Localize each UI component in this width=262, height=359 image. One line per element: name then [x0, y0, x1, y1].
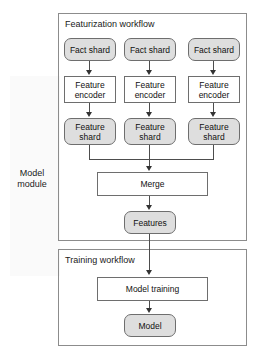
- model-module-label-line1: Model: [20, 168, 45, 178]
- node-fact-shard-2[interactable]: Fact shard: [124, 38, 176, 61]
- connector-merge-bus: [89, 159, 214, 160]
- arrowhead-merge-to-features: [146, 205, 152, 210]
- arrowhead-encoder1-to-shard1: [86, 112, 92, 117]
- arrowhead-model-training-to-model: [146, 308, 152, 313]
- arrowhead-encoder3-to-shard3: [210, 112, 216, 117]
- arrowhead-fact2-to-encoder2: [146, 70, 152, 75]
- arrowhead-bus-to-merge: [146, 166, 152, 171]
- node-feature-shard-2-label-line1: Feature: [135, 122, 164, 132]
- node-fact-shard-2-label: Fact shard: [130, 45, 170, 55]
- arrowhead-fact1-to-encoder1: [86, 70, 92, 75]
- node-fact-shard-1[interactable]: Fact shard: [64, 38, 116, 61]
- node-merge[interactable]: Merge: [97, 172, 208, 196]
- node-feature-shard-1-label-line1: Feature: [75, 122, 104, 132]
- node-feature-encoder-1[interactable]: Feature encoder: [64, 76, 116, 103]
- node-model[interactable]: Model: [124, 314, 176, 337]
- arrowhead-fact3-to-encoder3: [210, 70, 216, 75]
- node-fact-shard-1-label: Fact shard: [70, 45, 110, 55]
- model-module-label-line2: module: [17, 179, 47, 189]
- node-feature-shard-1[interactable]: Feature shard: [64, 118, 116, 145]
- node-fact-shard-3[interactable]: Fact shard: [188, 38, 240, 61]
- arrowhead-features-to-model-training: [146, 270, 152, 275]
- node-feature-encoder-2[interactable]: Feature encoder: [124, 76, 176, 103]
- node-feature-encoder-2-label-line1: Feature: [135, 80, 164, 90]
- arrowhead-encoder2-to-shard2: [146, 112, 152, 117]
- node-feature-encoder-3-label-line2: encoder: [199, 90, 230, 100]
- node-feature-shard-2[interactable]: Feature shard: [124, 118, 176, 145]
- node-feature-shard-3-label-line2: shard: [203, 132, 224, 142]
- node-merge-label: Merge: [140, 179, 164, 189]
- connector-features-to-model-training: [149, 234, 150, 272]
- node-features-label: Features: [133, 218, 167, 228]
- node-feature-shard-3-label-line1: Feature: [199, 122, 228, 132]
- node-feature-encoder-1-label-line2: encoder: [75, 90, 106, 100]
- node-feature-encoder-1-label-line1: Feature: [75, 80, 104, 90]
- featurization-workflow-title: Featurization workflow: [65, 19, 155, 29]
- node-feature-shard-1-label-line2: shard: [79, 132, 100, 142]
- connector-shard2-down: [149, 145, 150, 159]
- node-feature-encoder-3-label-line1: Feature: [199, 80, 228, 90]
- node-feature-shard-2-label-line2: shard: [139, 132, 160, 142]
- node-feature-shard-3[interactable]: Feature shard: [188, 118, 240, 145]
- node-features[interactable]: Features: [124, 211, 176, 234]
- model-module-label: Model module: [6, 168, 58, 190]
- node-model-training-label: Model training: [126, 284, 179, 294]
- node-feature-encoder-2-label-line2: encoder: [135, 90, 166, 100]
- connector-shard3-down: [213, 145, 214, 159]
- training-workflow-title: Training workflow: [65, 255, 135, 265]
- connector-shard1-down: [89, 145, 90, 159]
- node-model-training[interactable]: Model training: [97, 277, 208, 301]
- node-feature-encoder-3[interactable]: Feature encoder: [188, 76, 240, 103]
- node-fact-shard-3-label: Fact shard: [194, 45, 234, 55]
- node-model-label: Model: [138, 321, 161, 331]
- diagram-canvas: Model module Featurization workflow Trai…: [0, 0, 262, 359]
